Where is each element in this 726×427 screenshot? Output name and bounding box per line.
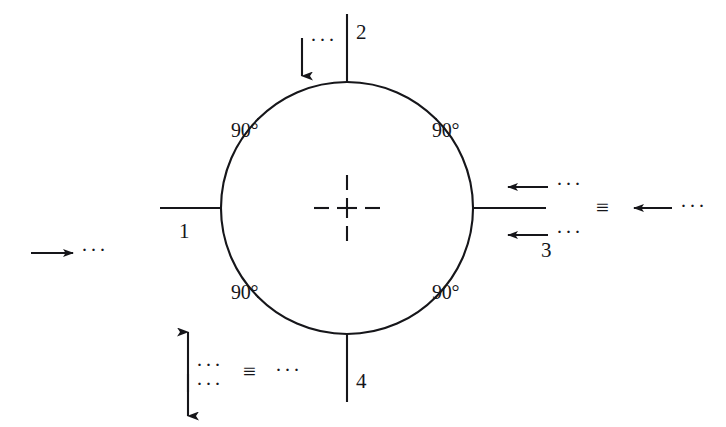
identical-symbol-right: ≡ [596,196,609,219]
angle-label-top-left: 90° [231,120,258,140]
position-label-3: 3 [541,240,552,261]
circle-arc-top [258,82,436,119]
ellipsis-right-lower: ··· [556,222,583,243]
diagram-canvas: 90° 90° 90° 90° 1 2 3 4 ··· ··· ··· ··· … [0,0,726,427]
circle-arc-bottom [258,297,436,334]
angle-label-top-right: 90° [432,120,459,140]
ellipsis-bottom-left-down: ··· [196,374,223,395]
ellipsis-right-upper: ··· [556,174,583,195]
angle-label-bottom-right: 90° [432,282,459,302]
circle-arc-left [221,119,258,297]
ellipsis-right-equivalent: ··· [680,196,707,217]
ellipsis-bottom-left-equivalent: ··· [275,360,302,381]
identical-symbol-bottom-left: ≡ [243,360,256,383]
angle-label-bottom-left: 90° [231,282,258,302]
position-label-4: 4 [356,371,367,392]
ellipsis-top: ··· [310,30,337,51]
circle-arc-right [436,119,473,297]
center-mark-icon [314,175,380,241]
ellipsis-far-left: ··· [81,240,108,261]
diagram-svg [0,0,726,427]
position-label-2: 2 [356,22,367,43]
position-label-1: 1 [179,221,190,242]
